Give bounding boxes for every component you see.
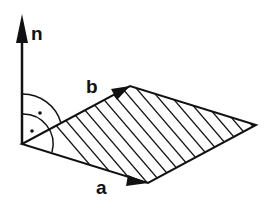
vector-n-label: n xyxy=(31,24,43,43)
vector-b xyxy=(111,86,130,100)
right-angle-dot xyxy=(38,111,42,115)
vector-b-label: b xyxy=(86,77,98,96)
vector-a-label: a xyxy=(96,178,107,197)
right-angle-arcs xyxy=(22,94,61,152)
right-angle-dot xyxy=(30,129,34,133)
vector-n xyxy=(16,14,28,144)
